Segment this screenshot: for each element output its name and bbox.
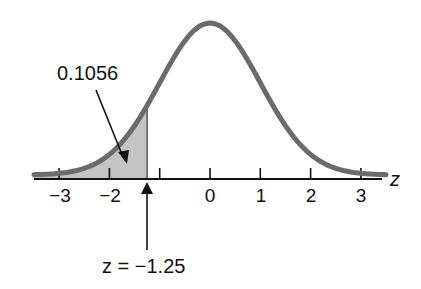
tick-label-neg2: −2 (99, 185, 121, 206)
tick-label-0: 0 (205, 185, 216, 206)
tick-label-1: 1 (256, 185, 267, 206)
axis-variable-label: z (389, 168, 400, 190)
area-pointer-line (96, 90, 123, 157)
area-value-label: 0.1056 (57, 62, 118, 84)
tick-label-2: 2 (306, 185, 317, 206)
tick-label-3: 3 (356, 185, 367, 206)
normal-distribution-diagram: −3 −2 0 1 2 3 z 0.1056 z = −1.25 (0, 0, 421, 289)
z-marker-arrowhead-icon (141, 182, 153, 194)
tick-label-neg3: −3 (49, 185, 71, 206)
normal-curve (34, 23, 386, 175)
z-marker-label: z = −1.25 (102, 255, 185, 277)
